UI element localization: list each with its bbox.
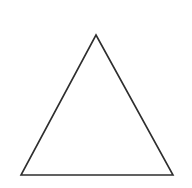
- figure-canvas: [0, 0, 192, 188]
- triangle-svg: [0, 0, 192, 188]
